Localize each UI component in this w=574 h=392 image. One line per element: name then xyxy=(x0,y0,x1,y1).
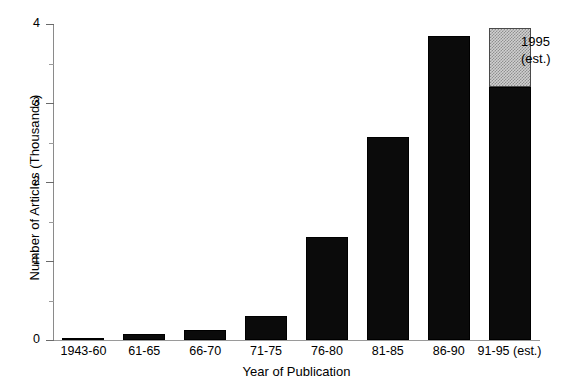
bar-segment-actual xyxy=(428,36,470,340)
bar-segment-actual xyxy=(367,137,409,340)
estimate-annotation: 1995 (est.) xyxy=(521,33,551,67)
bar xyxy=(367,137,409,340)
bar xyxy=(123,334,165,340)
estimate-annotation-line1: 1995 xyxy=(521,33,551,50)
bar-segment-actual xyxy=(184,330,226,340)
x-axis-title: Year of Publication xyxy=(53,364,540,379)
x-axis-line xyxy=(53,340,540,341)
bar xyxy=(489,28,531,340)
y-tick-label: 0 xyxy=(0,333,40,345)
bar xyxy=(62,338,104,340)
x-tick-label: 91-95 (est.) xyxy=(469,344,550,358)
y-tick-label: 2 xyxy=(0,175,40,187)
y-tick-major xyxy=(46,340,54,341)
y-tick-minor xyxy=(49,143,54,144)
y-tick-major xyxy=(46,103,54,104)
y-tick-label: 3 xyxy=(0,96,40,108)
y-tick-label: 4 xyxy=(0,17,40,29)
bar xyxy=(184,330,226,340)
y-tick-minor xyxy=(49,301,54,302)
y-tick-minor xyxy=(49,64,54,65)
bar-segment-actual xyxy=(489,87,531,340)
bar xyxy=(245,316,287,340)
bar-chart: Number of Articles (Thousands) 01234 194… xyxy=(0,0,574,392)
y-tick-minor xyxy=(49,222,54,223)
y-tick-major xyxy=(46,261,54,262)
bar-segment-actual xyxy=(62,338,104,340)
estimate-annotation-line2: (est.) xyxy=(521,50,551,67)
bar xyxy=(428,36,470,340)
y-tick-label: 1 xyxy=(0,254,40,266)
bar xyxy=(306,237,348,340)
y-tick-major xyxy=(46,182,54,183)
bar-segment-actual xyxy=(245,316,287,340)
bar-segment-actual xyxy=(306,237,348,340)
bar-segment-actual xyxy=(123,334,165,340)
y-tick-major xyxy=(46,24,54,25)
